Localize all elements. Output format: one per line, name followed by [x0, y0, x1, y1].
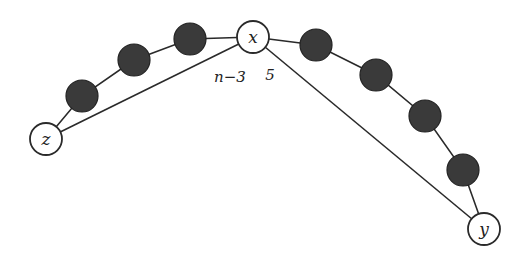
edge-label-n-minus-3: n−3 — [214, 68, 246, 86]
vertex-z-label: z — [41, 129, 52, 149]
filled-vertex — [300, 29, 332, 61]
graph-diagram: x z y n−3 5 — [0, 0, 527, 254]
edge-label-5: 5 — [265, 66, 275, 84]
filled-vertex — [447, 154, 479, 186]
filled-vertex — [409, 100, 441, 132]
vertex-x-label: x — [248, 27, 258, 47]
filled-vertex — [174, 23, 206, 55]
filled-vertex — [360, 59, 392, 91]
filled-vertex — [66, 80, 98, 112]
vertex-y-label: y — [478, 219, 489, 239]
filled-vertex — [118, 44, 150, 76]
